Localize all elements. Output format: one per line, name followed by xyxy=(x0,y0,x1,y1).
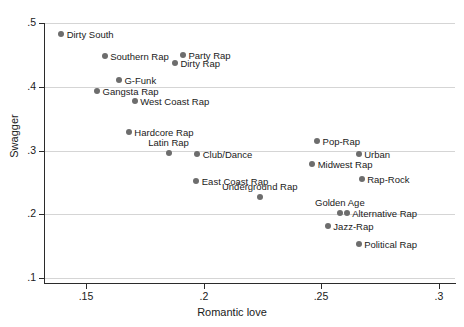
scatter-chart: .1.2.3.4.5 .15.2.25.3 Dirty SouthSouther… xyxy=(0,0,464,327)
x-tick-mark xyxy=(86,284,87,289)
gridline xyxy=(45,278,455,279)
x-tick-label: .2 xyxy=(200,290,209,302)
data-point xyxy=(356,241,362,247)
y-axis-line xyxy=(44,23,45,284)
data-point-label: Political Rap xyxy=(364,238,417,249)
data-point-label: Underground Rap xyxy=(222,180,298,191)
data-point xyxy=(314,138,320,144)
y-tick-mark xyxy=(39,151,44,152)
data-point xyxy=(309,161,315,167)
y-tick-mark xyxy=(39,23,44,24)
data-point-label: Dirty South xyxy=(67,28,114,39)
x-tick-label: .25 xyxy=(314,290,329,302)
x-tick-label: .3 xyxy=(435,290,444,302)
data-point-label: Club/Dance xyxy=(203,148,253,159)
x-tick-label: .15 xyxy=(79,290,94,302)
x-tick-mark xyxy=(439,284,440,289)
data-point xyxy=(356,151,362,157)
data-point-label: Latin Rap xyxy=(148,136,189,147)
x-tick-mark xyxy=(321,284,322,289)
data-point xyxy=(126,129,132,135)
gridline xyxy=(45,23,455,24)
data-point-label: Rap-Rock xyxy=(367,173,409,184)
data-point xyxy=(257,194,263,200)
y-tick-label: .5 xyxy=(0,16,36,28)
data-point xyxy=(172,60,178,66)
data-point-label: Dirty Rap xyxy=(180,57,220,68)
data-point-label: Southern Rap xyxy=(110,50,169,61)
y-tick-label: .2 xyxy=(0,207,36,219)
data-point xyxy=(193,178,199,184)
data-point-label: G-Funk xyxy=(124,74,156,85)
data-point xyxy=(325,223,331,229)
data-point xyxy=(344,210,350,216)
data-point xyxy=(166,150,172,156)
data-point xyxy=(132,98,138,104)
data-point xyxy=(337,210,343,216)
x-axis-line xyxy=(44,283,456,284)
data-point xyxy=(116,77,122,83)
data-point xyxy=(194,151,200,157)
x-axis-title: Romantic love xyxy=(0,306,464,318)
data-point xyxy=(359,176,365,182)
data-point xyxy=(94,88,100,94)
y-tick-mark xyxy=(39,278,44,279)
data-point-label: Alternative Rap xyxy=(352,207,417,218)
y-tick-mark xyxy=(39,87,44,88)
data-point-label: Pop-Rap xyxy=(323,135,361,146)
data-point xyxy=(102,53,108,59)
x-tick-mark xyxy=(204,284,205,289)
y-tick-label: .1 xyxy=(0,271,36,283)
data-point-label: Golden Age xyxy=(315,196,365,207)
data-point-label: West Coast Rap xyxy=(140,95,209,106)
data-point-label: Jazz-Rap xyxy=(333,220,373,231)
data-point xyxy=(58,31,64,37)
data-point-label: Midwest Rap xyxy=(318,158,373,169)
y-axis-title: Swagger xyxy=(8,76,20,196)
y-tick-mark xyxy=(39,214,44,215)
